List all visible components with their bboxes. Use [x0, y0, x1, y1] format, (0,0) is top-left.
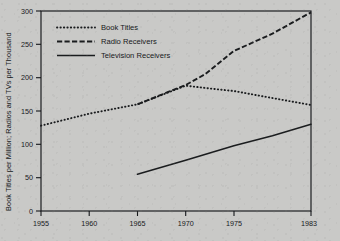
- y-tick-labels: 300 250 200 150 100 50 0: [21, 7, 33, 216]
- x-tick-label: 1960: [81, 219, 97, 228]
- y-tick-label: 0: [29, 207, 33, 216]
- legend-label: Radio Receivers: [101, 37, 157, 46]
- x-tick-label: 1955: [33, 219, 49, 228]
- x-tick-label: 1970: [178, 219, 194, 228]
- y-axis-title: Book Titles per Million; Radios and TVs …: [4, 32, 13, 211]
- chart-legend: Book Titles Radio Receivers Television R…: [57, 23, 170, 60]
- x-axis-ticks: [41, 211, 311, 216]
- line-chart-svg: 300 250 200 150 100 50 0 Book Titles per…: [0, 0, 340, 241]
- y-tick-label: 50: [25, 173, 33, 182]
- series-line-television-receivers: [137, 124, 311, 174]
- y-tick-label: 100: [21, 140, 33, 149]
- legend-item-television-receivers: Television Receivers: [57, 51, 170, 60]
- legend-item-radio-receivers: Radio Receivers: [57, 37, 157, 46]
- y-tick-label: 150: [21, 107, 33, 116]
- series-line-book-titles: [41, 86, 311, 126]
- y-tick-label: 300: [21, 7, 33, 16]
- y-axis-ticks: [36, 11, 41, 211]
- data-series-group: [41, 12, 311, 174]
- y-tick-label: 200: [21, 73, 33, 82]
- legend-item-book-titles: Book Titles: [57, 23, 138, 32]
- legend-label: Television Receivers: [101, 51, 170, 60]
- x-tick-label: 1983: [301, 219, 317, 228]
- x-tick-label: 1965: [130, 219, 146, 228]
- x-tick-labels: 1955 1960 1965 1970 1975 1983: [33, 219, 317, 228]
- y-tick-label: 250: [21, 40, 33, 49]
- x-tick-label: 1975: [226, 219, 242, 228]
- legend-label: Book Titles: [101, 23, 138, 32]
- chart-figure: 300 250 200 150 100 50 0 Book Titles per…: [0, 0, 340, 241]
